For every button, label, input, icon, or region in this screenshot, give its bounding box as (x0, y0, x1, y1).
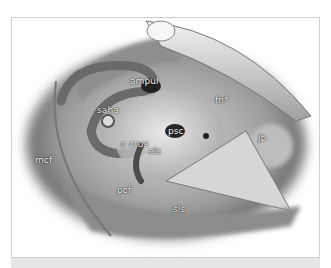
label-ampul: ampul (130, 76, 159, 86)
label-els: els (148, 146, 161, 156)
label-jb: jb (258, 133, 266, 143)
label-psc: psc (168, 126, 184, 136)
label-mcf: mcf (35, 155, 52, 165)
label-sls: sls (173, 204, 185, 214)
label-pcf: pcf (117, 185, 131, 195)
label-c-crus: c crus (121, 139, 148, 149)
inner-ear-illustration (12, 18, 320, 258)
illustration-frame (11, 17, 320, 258)
label-saha: saha (97, 105, 119, 115)
caption-strip (11, 258, 320, 268)
label-fn: fn* (215, 95, 229, 105)
